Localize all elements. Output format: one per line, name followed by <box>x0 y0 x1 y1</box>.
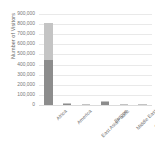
gridline <box>39 44 152 45</box>
gridline <box>39 95 152 96</box>
bar-segment-series-2 <box>63 103 71 104</box>
y-axis-tick-label: 200,000 <box>0 82 35 87</box>
bar-africa[interactable] <box>44 14 52 105</box>
gridline <box>39 24 152 25</box>
gridline <box>39 85 152 86</box>
bar-europe[interactable] <box>101 14 109 105</box>
bar-south-asia[interactable] <box>138 14 146 105</box>
bar-middle-east[interactable] <box>120 14 128 105</box>
bar-segment-series-2 <box>101 101 109 102</box>
y-axis-tick-label: 700,000 <box>0 32 35 37</box>
bar-segment-series-2 <box>44 23 52 59</box>
gridline <box>39 65 152 66</box>
x-axis-label-text: Middle East <box>134 108 155 131</box>
x-axis-label-text: Africa <box>55 108 68 121</box>
x-axis-label-africa: Africa <box>55 108 68 121</box>
plot-area: 0100,000200,000300,000400,000500,000600,… <box>39 14 152 105</box>
y-axis-tick-label: 900,000 <box>0 11 35 16</box>
x-axis-label-text: America <box>76 108 93 125</box>
gridline <box>39 34 152 35</box>
y-axis-tick-label: 0 <box>0 102 35 107</box>
gridline <box>39 54 152 55</box>
y-axis-tick-label: 800,000 <box>0 22 35 27</box>
gridline <box>39 75 152 76</box>
bar-america[interactable] <box>63 14 71 105</box>
bar-east-asia-pacific[interactable] <box>82 14 90 105</box>
x-axis-label-middle-east: Middle East <box>134 108 155 131</box>
y-axis-tick-label: 400,000 <box>0 62 35 67</box>
bar-segment-series-1 <box>44 60 52 106</box>
y-axis-tick-label: 500,000 <box>0 52 35 57</box>
y-axis-tick-label: 600,000 <box>0 42 35 47</box>
y-axis-tick-label: 100,000 <box>0 92 35 97</box>
x-axis-label-america: America <box>76 108 93 125</box>
bar-chart: Number of Visitors 0100,000200,000300,00… <box>0 0 155 146</box>
y-axis-tick-label: 300,000 <box>0 72 35 77</box>
gridline <box>39 14 152 15</box>
x-axis-labels: AfricaAmericaEast Asia/PacificEuropeMidd… <box>39 105 152 146</box>
